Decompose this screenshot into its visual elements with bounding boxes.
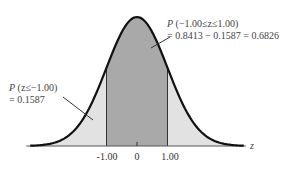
annotation-central-line2: = 0.8413 − 0.1587 = 0.6826 bbox=[167, 30, 279, 41]
tick-label-neg1: -1.00 bbox=[97, 151, 118, 162]
right-tail-region bbox=[168, 68, 244, 146]
axis-label-z: z bbox=[249, 140, 254, 151]
tick-label-0: 0 bbox=[135, 151, 140, 162]
tick-label-pos1: 1.00 bbox=[161, 151, 179, 162]
annotation-left-line1: P (z≤−1.00) bbox=[8, 82, 57, 94]
normal-curve-diagram: P (−1.00≤z≤1.00) = 0.8413 − 0.1587 = 0.6… bbox=[0, 0, 292, 169]
annotation-left-line2: = 0.1587 bbox=[9, 94, 45, 105]
left-tail-region bbox=[30, 68, 106, 146]
annotation-central-line1: P (−1.00≤z≤1.00) bbox=[166, 18, 238, 30]
central-region bbox=[107, 17, 168, 146]
